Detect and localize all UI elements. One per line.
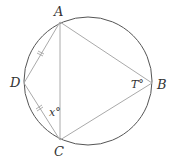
label-c: C	[54, 144, 64, 159]
cyclic-quadrilateral-diagram: A B C D T° x°	[0, 0, 173, 163]
label-b: B	[156, 77, 167, 92]
segment-ad	[24, 22, 60, 83]
segment-bc	[60, 83, 152, 140]
angle-label-t: T°	[131, 78, 144, 91]
label-a: A	[53, 4, 63, 19]
angle-label-x: x°	[49, 106, 61, 119]
label-d: D	[9, 75, 21, 90]
segment-ab	[60, 22, 152, 83]
